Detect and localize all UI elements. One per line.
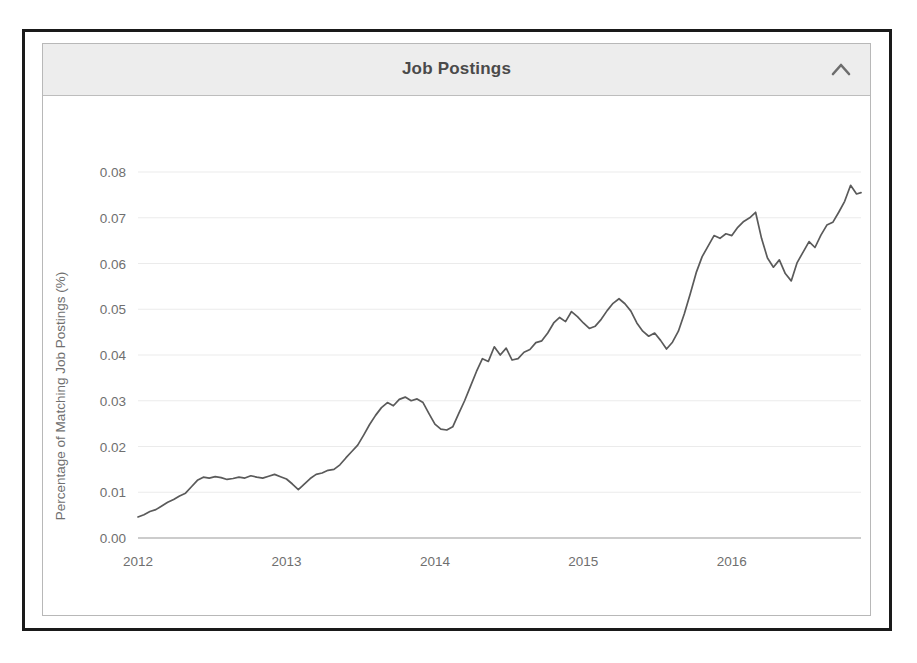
x-tick-label: 2012 <box>123 554 153 569</box>
panel-header: Job Postings <box>43 44 870 96</box>
screenshot-root: Job Postings 0.000.010.020.030.040.050.0… <box>0 0 917 663</box>
chevron-up-icon[interactable] <box>826 56 856 84</box>
y-tick-label: 0.04 <box>100 348 127 363</box>
y-axis-title: Percentage of Matching Job Postings (%) <box>53 272 68 520</box>
y-tick-label: 0.07 <box>100 211 126 226</box>
y-tick-label: 0.01 <box>100 485 126 500</box>
page-title: Job Postings <box>43 59 870 79</box>
x-tick-label: 2014 <box>420 554 451 569</box>
outer-frame: Job Postings 0.000.010.020.030.040.050.0… <box>22 29 892 631</box>
x-tick-label: 2016 <box>717 554 747 569</box>
x-axis-ticks: 20122013201420152016 <box>123 554 747 569</box>
y-axis-ticks: 0.000.010.020.030.040.050.060.070.08 <box>100 165 127 546</box>
y-tick-label: 0.02 <box>100 440 126 455</box>
panel-body: 0.000.010.020.030.040.050.060.070.08 201… <box>43 96 870 615</box>
y-tick-label: 0.03 <box>100 394 126 409</box>
y-tick-label: 0.05 <box>100 302 126 317</box>
job-postings-panel: Job Postings 0.000.010.020.030.040.050.0… <box>42 43 871 616</box>
y-tick-label: 0.08 <box>100 165 126 180</box>
y-tick-label: 0.00 <box>100 531 126 546</box>
x-tick-label: 2015 <box>568 554 598 569</box>
y-tick-label: 0.06 <box>100 257 126 272</box>
job-postings-line-chart: 0.000.010.020.030.040.050.060.070.08 201… <box>43 96 870 615</box>
x-tick-label: 2013 <box>271 554 301 569</box>
data-line <box>138 185 861 517</box>
